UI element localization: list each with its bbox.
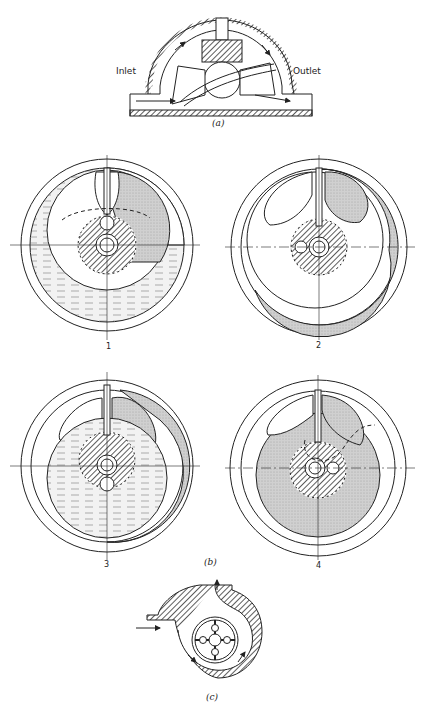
caption-b: (b) xyxy=(204,557,217,567)
panel-a-pump xyxy=(130,18,312,116)
pump-diagram-figure xyxy=(0,0,426,710)
inlet-label: Inlet xyxy=(116,66,136,76)
stage-4-diagram xyxy=(225,375,415,560)
caption-a: (a) xyxy=(212,118,224,128)
stage-label-1: 1 xyxy=(106,342,111,351)
caption-c: (c) xyxy=(206,692,218,702)
stage-1-diagram xyxy=(10,155,200,340)
stage-label-3: 3 xyxy=(104,560,109,569)
outlet-label: Outlet xyxy=(293,66,321,76)
stage-label-2: 2 xyxy=(316,341,321,350)
stage-3-diagram xyxy=(10,372,200,560)
stage-label-4: 4 xyxy=(316,561,321,570)
panel-c-pump xyxy=(136,580,262,678)
stage-2-diagram xyxy=(225,155,415,340)
